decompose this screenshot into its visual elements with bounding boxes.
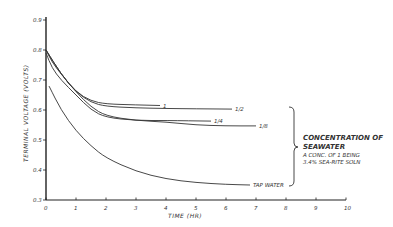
y-tick-label: 0.6 [33,107,42,113]
x-tick-label: 4 [164,205,168,211]
annotation-title-line2: SEAWATER [303,143,345,151]
voltage-chart: 0123456789100.30.40.50.60.70.80.9 11/21/… [0,0,393,227]
x-tick-label: 10 [344,205,351,211]
y-tick-label: 0.7 [33,77,42,83]
series-labels: 11/21/41/8TAP WATER [163,103,284,189]
annotation-sub-line1: A CONC. OF 1 BEING [302,152,360,158]
x-axis-title: TIME (HR) [168,212,202,219]
x-tick-label: 9 [314,205,318,211]
x-tick-label: 8 [284,205,288,211]
x-tick-label: 0 [44,205,48,211]
series-line-3 [46,53,211,121]
y-tick-label: 0.9 [33,17,42,23]
annotation-title-line1: CONCENTRATION OF [303,134,383,142]
series-line-2 [46,50,232,109]
data-series [46,50,256,185]
y-axis-title: TERMINAL VOLTAGE (VOLTS) [22,64,29,162]
series-line-1 [46,50,160,106]
x-tick-label: 6 [224,205,228,211]
y-tick-label: 0.5 [33,137,42,143]
annotation-sub-line2: 3.4% SEA-RITE SOLN [303,159,360,165]
brace-icon [289,107,298,186]
series-label-3: 1/4 [214,118,223,124]
x-tick-label: 7 [254,205,258,211]
series-label-5: TAP WATER [253,182,284,188]
y-tick-label: 0.3 [33,197,42,203]
x-tick-label: 2 [104,205,108,211]
series-line-4 [46,50,256,126]
y-tick-label: 0.4 [33,167,42,173]
x-tick-label: 1 [74,205,78,211]
series-label-2: 1/2 [235,106,244,112]
series-label-4: 1/8 [259,123,268,129]
x-tick-label: 3 [134,205,138,211]
series-line-5 [49,86,250,185]
x-tick-label: 5 [194,205,198,211]
y-tick-label: 0.8 [33,47,42,53]
series-label-1: 1 [163,103,167,109]
